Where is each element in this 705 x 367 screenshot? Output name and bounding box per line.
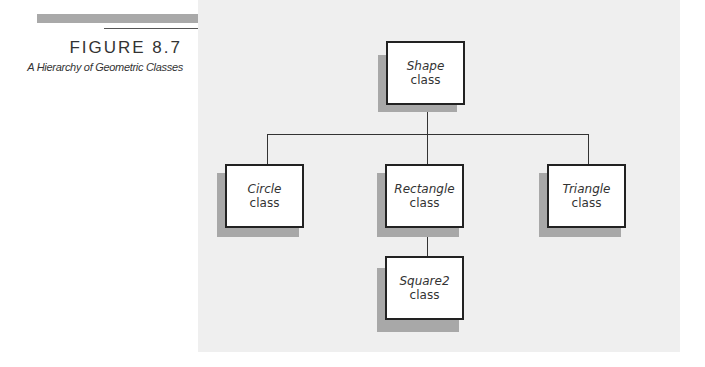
connector-to-triangle <box>588 134 589 164</box>
node-name: Shape <box>407 59 445 73</box>
figure-caption: A Hierarchy of Geometric Classes <box>27 61 183 73</box>
triangle-class-node: Triangle class <box>547 164 626 228</box>
connector-to-rectangle <box>427 134 428 164</box>
node-name: Triangle <box>563 182 611 196</box>
node-kind: class <box>410 196 440 210</box>
connector-horizontal-bus <box>267 134 589 135</box>
node-kind: class <box>572 196 602 210</box>
rectangle-class-node: Rectangle class <box>385 164 464 228</box>
circle-class-node: Circle class <box>225 164 304 228</box>
node-kind: class <box>410 288 440 302</box>
node-kind: class <box>250 196 280 210</box>
connector-to-circle <box>267 134 268 164</box>
shape-class-node: Shape class <box>386 41 465 105</box>
figure-label: FIGURE 8.7 <box>69 38 182 58</box>
node-name: Square2 <box>399 274 449 288</box>
square2-class-node: Square2 class <box>385 256 464 320</box>
node-kind: class <box>411 73 441 87</box>
node-name: Rectangle <box>394 182 454 196</box>
node-name: Circle <box>248 182 282 196</box>
